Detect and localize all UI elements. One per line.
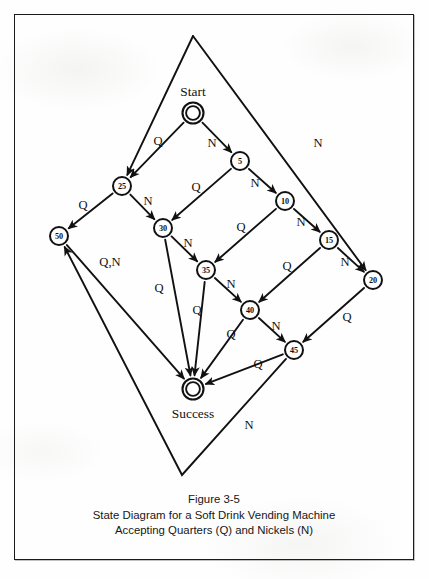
figure-caption: Figure 3-5 State Diagram for a Soft Drin… [14,492,414,539]
figure-border [14,14,414,560]
caption-title: State Diagram for a Soft Drink Vending M… [14,508,414,524]
figure-page: Start5101520253035404550Success QNQNQNQN… [0,0,429,579]
caption-subtitle: Accepting Quarters (Q) and Nickels (N) [14,523,414,539]
caption-figure-number: Figure 3-5 [14,492,414,508]
